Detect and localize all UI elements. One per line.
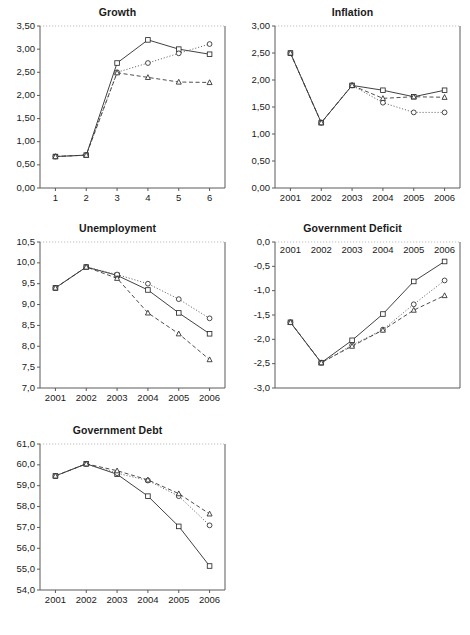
data-point-triangle — [207, 511, 212, 516]
x-tick-label: 2002 — [311, 192, 332, 203]
series-line-square — [290, 261, 444, 362]
y-tick-label: 9,5 — [22, 277, 35, 288]
y-tick-label: 60,0 — [17, 458, 36, 469]
x-tick-label: 2006 — [199, 392, 220, 403]
x-tick-label: 4 — [145, 192, 150, 203]
data-point-circle — [207, 42, 212, 47]
x-tick-label: 2001 — [280, 192, 301, 203]
data-point-square — [146, 288, 151, 293]
plot-area-inflation: 0,000,501,001,502,002,503,00200120022003… — [235, 20, 470, 216]
data-point-square — [381, 312, 386, 317]
data-point-square — [207, 564, 212, 569]
x-tick-label: 2004 — [137, 392, 158, 403]
series-line-square — [55, 464, 209, 566]
x-tick-label: 2006 — [199, 594, 220, 605]
chart-title-growth: Growth — [0, 6, 235, 18]
series-line-triangle — [55, 267, 209, 360]
x-tick-label: 3 — [114, 192, 119, 203]
chart-svg: 0,000,501,001,502,002,503,00200120022003… — [235, 20, 470, 216]
x-tick-label: 2005 — [403, 192, 424, 203]
y-tick-label: 1,50 — [17, 112, 36, 123]
figure-container: Growth 0,000,501,001,502,002,503,003,501… — [0, 0, 470, 635]
data-point-circle — [146, 61, 151, 66]
y-tick-label: 2,00 — [17, 89, 36, 100]
y-tick-label: 10,0 — [17, 256, 36, 267]
y-tick-label: 55,0 — [17, 563, 36, 574]
data-point-triangle — [207, 357, 212, 362]
y-tick-label: 56,0 — [17, 542, 36, 553]
data-point-triangle — [442, 293, 447, 298]
y-tick-label: 3,00 — [17, 43, 36, 54]
x-tick-label: 2003 — [107, 594, 128, 605]
x-tick-label: 2003 — [342, 244, 363, 255]
y-tick-label: 9,0 — [22, 298, 35, 309]
x-tick-label: 2006 — [434, 192, 455, 203]
series-line-square — [55, 40, 209, 157]
series-line-circle — [55, 44, 209, 156]
data-point-circle — [146, 281, 151, 286]
x-tick-label: 2001 — [280, 244, 301, 255]
x-tick-label: 2005 — [403, 244, 424, 255]
chart-title-inflation: Inflation — [235, 6, 470, 18]
x-tick-label: 2005 — [168, 594, 189, 605]
y-tick-label: 1,50 — [252, 101, 271, 112]
y-tick-label: 54,0 — [17, 584, 36, 595]
y-tick-label: -2,0 — [254, 333, 270, 344]
y-tick-label: 0,50 — [17, 158, 36, 169]
chart-title-government-deficit: Government Deficit — [235, 222, 470, 234]
data-point-circle — [207, 523, 212, 528]
data-point-circle — [176, 51, 181, 56]
data-point-square — [146, 38, 151, 43]
figure-caption — [4, 625, 466, 634]
data-point-square — [115, 61, 120, 66]
chart-panel-growth: Growth 0,000,501,001,502,002,503,003,501… — [0, 6, 235, 216]
x-tick-label: 2002 — [76, 392, 97, 403]
x-tick-label: 2006 — [434, 244, 455, 255]
chart-svg: 7,07,58,08,59,09,510,010,520012002200320… — [0, 236, 235, 418]
x-tick-label: 2001 — [45, 392, 66, 403]
data-point-square — [381, 88, 386, 93]
y-tick-label: -1,0 — [254, 284, 270, 295]
x-tick-label: 2002 — [76, 594, 97, 605]
y-tick-label: -2,5 — [254, 357, 270, 368]
x-tick-label: 2004 — [372, 192, 393, 203]
data-point-square — [146, 494, 151, 499]
y-tick-label: 2,50 — [252, 47, 271, 58]
y-tick-label: 59,0 — [17, 479, 36, 490]
series-line-triangle — [55, 73, 209, 157]
y-tick-label: 2,50 — [17, 66, 36, 77]
x-tick-label: 2003 — [107, 392, 128, 403]
x-tick-label: 2002 — [311, 244, 332, 255]
y-tick-label: 1,00 — [252, 128, 271, 139]
data-point-circle — [411, 110, 416, 115]
y-tick-label: 61,0 — [17, 438, 36, 449]
data-point-circle — [411, 302, 416, 307]
data-point-square — [411, 279, 416, 284]
y-tick-label: 8,0 — [22, 340, 35, 351]
plot-area-government-deficit: -3,0-2,5-2,0-1,5-1,0-0,50,02001200220032… — [235, 236, 470, 418]
data-point-square — [176, 311, 181, 316]
series-line-circle — [290, 280, 444, 362]
series-line-triangle — [55, 464, 209, 514]
y-tick-label: 1,00 — [17, 135, 36, 146]
chart-title-unemployment: Unemployment — [0, 222, 235, 234]
y-tick-label: 57,0 — [17, 521, 36, 532]
x-tick-label: 1 — [53, 192, 58, 203]
y-tick-label: 3,50 — [17, 20, 36, 31]
y-tick-label: 58,0 — [17, 500, 36, 511]
data-point-circle — [381, 100, 386, 105]
data-point-circle — [442, 278, 447, 283]
series-line-square — [290, 53, 444, 123]
x-tick-label: 2005 — [168, 392, 189, 403]
chart-panel-unemployment: Unemployment 7,07,58,08,59,09,510,010,52… — [0, 222, 235, 418]
data-point-circle — [442, 110, 447, 115]
plot-area-unemployment: 7,07,58,08,59,09,510,010,520012002200320… — [0, 236, 235, 418]
y-tick-label: 3,00 — [252, 20, 271, 31]
chart-panel-inflation: Inflation 0,000,501,001,502,002,503,0020… — [235, 6, 470, 216]
data-point-circle — [207, 316, 212, 321]
plot-area-growth: 0,000,501,001,502,002,503,003,50123456 — [0, 20, 235, 216]
y-tick-label: 2,00 — [252, 74, 271, 85]
x-tick-label: 2003 — [342, 192, 363, 203]
y-tick-label: -3,0 — [254, 382, 270, 393]
chart-panel-government-deficit: Government Deficit -3,0-2,5-2,0-1,5-1,0-… — [235, 222, 470, 418]
